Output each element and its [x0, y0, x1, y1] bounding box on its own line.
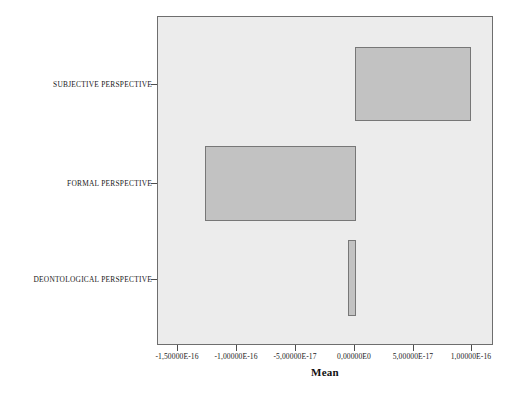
x-axis-tick-label-4: 0,00000E0: [337, 352, 371, 361]
x-axis-tick-label-6: 1,00000E-16: [451, 352, 492, 361]
x-axis-tick-label-3: -5,00000E-17: [273, 352, 316, 361]
y-axis-tick-deontological-perspective: [151, 279, 157, 280]
y-axis-label-deontological-perspective: DEONTOLOGICAL PERSPECTIVE: [33, 275, 152, 284]
x-axis-tick-1: [177, 345, 178, 351]
y-axis-label-formal-perspective: FORMAL PERSPECTIVE: [67, 179, 152, 188]
bar-formal-perspective[interactable]: [205, 146, 356, 221]
y-axis-label-subjective-perspective: SUBJECTIVE PERSPECTIVE: [53, 80, 152, 89]
x-axis-tick-label-2: -1,00000E-16: [214, 352, 257, 361]
x-axis-tick-label-5: 5,00000E-17: [393, 352, 434, 361]
bar-deontological-perspective[interactable]: [348, 240, 356, 316]
chart-container: SUBJECTIVE PERSPECTIVE FORMAL PERSPECTIV…: [0, 0, 520, 394]
y-axis-labels: SUBJECTIVE PERSPECTIVE FORMAL PERSPECTIV…: [0, 0, 152, 394]
y-axis-tick-subjective-perspective: [151, 84, 157, 85]
x-axis-tick-3: [295, 345, 296, 351]
bar-subjective-perspective[interactable]: [355, 47, 471, 121]
y-axis-tick-formal-perspective: [151, 183, 157, 184]
x-axis-title: Mean: [157, 366, 493, 378]
x-axis-tick-2: [236, 345, 237, 351]
plot-area: [157, 16, 493, 345]
x-axis-tick-6: [471, 345, 472, 351]
x-axis-tick-5: [413, 345, 414, 351]
x-axis-tick-4: [354, 345, 355, 351]
x-axis-tick-label-1: -1,50000E-16: [155, 352, 198, 361]
